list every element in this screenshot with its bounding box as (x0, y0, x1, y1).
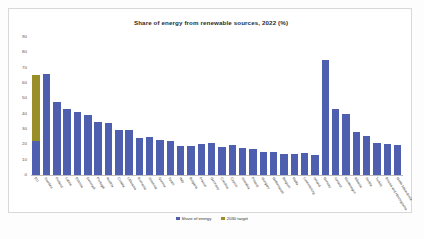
bar-montenegro[interactable] (342, 114, 349, 175)
bar-cyprus[interactable] (229, 145, 236, 175)
bar-slot (103, 37, 113, 175)
bar-luxembourg[interactable] (301, 153, 308, 175)
bar-greece[interactable] (156, 140, 163, 175)
x-label-slot: Portugal (93, 176, 103, 220)
x-label-slot: Bulgaria (186, 176, 196, 220)
bar-slot (93, 37, 103, 175)
bar-eu[interactable] (32, 75, 39, 175)
x-label-slot: Turkey (372, 176, 382, 220)
bar-slot (351, 37, 361, 175)
bar-serbia[interactable] (363, 136, 370, 175)
y-axis-tick: 70 (22, 65, 27, 69)
x-axis-labels: EUSwedenFinlandLatviaEstoniaDenmarkPortu… (31, 176, 403, 220)
x-axis-label: EU (33, 177, 39, 183)
bar-segment-share (373, 143, 380, 175)
bar-segment-share (249, 149, 256, 175)
bar-romania[interactable] (136, 138, 143, 175)
x-label-slot: Luxembourg (300, 176, 310, 220)
bar-spain[interactable] (167, 141, 174, 175)
bar-slot (269, 37, 279, 175)
bar-bosnia-and-herzegovina[interactable] (384, 144, 391, 175)
chart-screenshot: Share of energy from renewable sources, … (0, 0, 424, 239)
x-label-slot: Belgium (279, 176, 289, 220)
bar-slot (155, 37, 165, 175)
bar-slot (52, 37, 62, 175)
bar-italy[interactable] (177, 146, 184, 175)
bar-netherlands[interactable] (270, 152, 277, 175)
bar-slot (300, 37, 310, 175)
bar-austria[interactable] (105, 123, 112, 175)
bar-portugal[interactable] (94, 122, 101, 175)
bar-slot (341, 37, 351, 175)
bar-finland[interactable] (53, 102, 60, 175)
bar-sweden[interactable] (43, 74, 50, 175)
bar-segment-share (187, 146, 194, 175)
x-label-slot: Estonia (72, 176, 82, 220)
bar-latvia[interactable] (63, 109, 70, 175)
x-label-slot: Slovakia (238, 176, 248, 220)
x-label-slot: Italy (176, 176, 186, 220)
bar-norway[interactable] (322, 60, 329, 175)
bar-slot (258, 37, 268, 175)
bar-north-macedonia[interactable] (394, 145, 401, 175)
x-label-slot: EU (31, 176, 41, 220)
bar-segment-share (115, 130, 122, 175)
bar-belgium[interactable] (280, 154, 287, 175)
bar-germany[interactable] (208, 143, 215, 175)
x-label-slot: Croatia (114, 176, 124, 220)
bar-segment-share (32, 141, 39, 175)
bar-segment-share (208, 143, 215, 175)
bar-hungary[interactable] (260, 152, 267, 175)
bar-segment-share (353, 132, 360, 175)
bar-segment-target (32, 75, 39, 142)
bar-segment-share (125, 130, 132, 175)
bar-malta[interactable] (291, 154, 298, 175)
bar-france[interactable] (198, 144, 205, 175)
bar-segment-share (260, 152, 267, 175)
bar-slot (310, 37, 320, 175)
bar-slot (62, 37, 72, 175)
bar-estonia[interactable] (74, 112, 81, 175)
x-label-slot: Netherlands (269, 176, 279, 220)
bar-slovenia[interactable] (146, 137, 153, 175)
x-label-slot: Montenegro (341, 176, 351, 220)
bar-slot (145, 37, 155, 175)
bar-segment-share (63, 109, 70, 175)
bar-segment-share (94, 122, 101, 175)
bar-slot (392, 37, 402, 175)
bar-segment-share (156, 140, 163, 175)
bar-slot (248, 37, 258, 175)
bar-segment-share (342, 114, 349, 175)
bar-poland[interactable] (249, 149, 256, 175)
bar-denmark[interactable] (84, 115, 91, 175)
y-axis-tick: 30 (22, 127, 27, 131)
x-axis-label: Latvia (64, 177, 72, 187)
bar-slot (238, 37, 248, 175)
bar-bulgaria[interactable] (187, 146, 194, 175)
bar-iceland[interactable] (332, 109, 339, 175)
bar-ireland[interactable] (311, 155, 318, 175)
x-label-slot: Denmark (83, 176, 93, 220)
x-axis-label: Malta (291, 177, 299, 186)
bar-slovakia[interactable] (239, 148, 246, 175)
y-axis-tick: 20 (22, 142, 27, 146)
bar-lithuania[interactable] (125, 130, 132, 175)
bar-slot (41, 37, 51, 175)
bar-slot (114, 37, 124, 175)
x-label-slot: Norway (320, 176, 330, 220)
bar-slot (217, 37, 227, 175)
bar-segment-share (229, 145, 236, 175)
bar-croatia[interactable] (115, 130, 122, 175)
bar-slot (196, 37, 206, 175)
x-label-slot: Sweden (41, 176, 51, 220)
x-label-slot: Hungary (258, 176, 268, 220)
bar-czechia[interactable] (218, 147, 225, 175)
y-axis-tick: 40 (22, 111, 27, 115)
bar-slot (31, 37, 41, 175)
x-label-slot: Germany (207, 176, 217, 220)
y-axis-tick: 50 (22, 96, 27, 100)
x-label-slot: Finland (52, 176, 62, 220)
bar-albania[interactable] (353, 132, 360, 175)
plot-area (31, 37, 403, 175)
bar-turkey[interactable] (373, 143, 380, 175)
